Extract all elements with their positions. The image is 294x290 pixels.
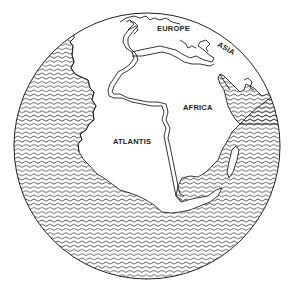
label-europe: EUROPE <box>157 24 190 33</box>
atlantis-globe-map: EUROPE ASIA AFRICA ATLANTIS <box>0 0 294 290</box>
label-africa: AFRICA <box>183 103 213 112</box>
label-atlantis: ATLANTIS <box>113 137 151 146</box>
